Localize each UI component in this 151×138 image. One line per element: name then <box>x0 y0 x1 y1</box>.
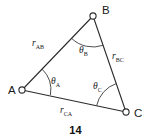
edge-line-ca <box>22 90 126 112</box>
triangle-diagram: A B C rAB rBC rCA θA θB θC <box>0 0 151 138</box>
angle-label-theta-c-sub: C <box>98 87 102 93</box>
angle-label-theta-b: θB <box>79 45 88 57</box>
vertex-marker-b <box>90 13 96 19</box>
angle-label-theta-b-sub: B <box>84 51 88 57</box>
edge-label-rbc: rBC <box>112 51 124 63</box>
figure-container: A B C rAB rBC rCA θA θB θC 14 <box>0 0 151 138</box>
figure-caption: 14 <box>0 124 151 136</box>
edge-label-rca-sub: CA <box>64 111 73 117</box>
angle-label-theta-a-sub: A <box>56 82 61 88</box>
angle-label-theta-c: θC <box>93 81 102 93</box>
vertex-label-a: A <box>8 84 16 96</box>
angle-label-theta-a: θA <box>51 76 61 88</box>
angle-arc-b <box>72 38 104 47</box>
vertex-marker-c <box>123 109 129 115</box>
edge-label-rab-sub: AB <box>36 44 44 50</box>
vertex-label-c: C <box>134 107 142 119</box>
vertex-marker-a <box>19 87 25 93</box>
angle-arc-a <box>42 69 51 95</box>
edge-label-rbc-sub: BC <box>116 57 124 63</box>
edge-label-rca: rCA <box>60 105 73 117</box>
edge-line-bc <box>93 16 126 112</box>
vertex-label-b: B <box>102 4 110 16</box>
edge-label-rab: rAB <box>32 38 44 50</box>
